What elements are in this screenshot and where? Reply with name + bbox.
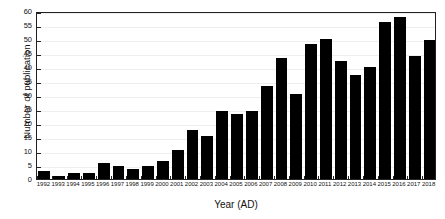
x-tick-mark xyxy=(141,176,142,179)
x-tick-mark xyxy=(185,176,186,179)
bar xyxy=(157,161,169,179)
x-tick-mark xyxy=(170,176,171,179)
x-tick-mark xyxy=(333,176,334,179)
x-tick-mark xyxy=(52,176,53,179)
plot-area xyxy=(36,12,436,180)
y-tick-label: 15 xyxy=(10,134,32,142)
x-tick-mark xyxy=(126,176,127,179)
bar xyxy=(68,173,80,179)
x-tick-mark xyxy=(274,176,275,179)
y-tick-label: 40 xyxy=(10,64,32,72)
x-tick-label: 2003 xyxy=(199,181,214,188)
x-tick-label: 2013 xyxy=(347,181,362,188)
x-tick-label: 2005 xyxy=(229,181,244,188)
x-tick-mark xyxy=(378,176,379,179)
y-tick-label: 30 xyxy=(10,92,32,100)
bar xyxy=(142,166,154,179)
bar xyxy=(172,150,184,179)
x-tick-label: 2015 xyxy=(377,181,392,188)
x-tick-label: 1996 xyxy=(95,181,110,188)
x-tick-label: 2006 xyxy=(243,181,258,188)
x-tick-label: 2008 xyxy=(273,181,288,188)
y-tick-label: 35 xyxy=(10,78,32,86)
x-tick-mark xyxy=(289,176,290,179)
x-axis-title: Year (AD) xyxy=(36,199,436,210)
bar xyxy=(350,75,362,179)
x-tick-label: 1995 xyxy=(80,181,95,188)
bar xyxy=(83,173,95,179)
x-tick-label: 1994 xyxy=(66,181,81,188)
y-tick-label: 5 xyxy=(10,162,32,170)
bar xyxy=(320,39,332,179)
y-tick-label: 50 xyxy=(10,36,32,44)
y-tick-label: 55 xyxy=(10,22,32,30)
x-tick-mark xyxy=(200,176,201,179)
bar xyxy=(246,111,258,179)
bar xyxy=(394,17,406,179)
bar xyxy=(53,176,65,179)
x-tick-label: 2018 xyxy=(421,181,436,188)
bar xyxy=(127,169,139,179)
x-tick-label: 1998 xyxy=(125,181,140,188)
x-tick-mark xyxy=(230,176,231,179)
x-tick-mark xyxy=(348,176,349,179)
x-tick-mark xyxy=(37,176,38,179)
bar xyxy=(364,67,376,179)
x-tick-label: 2007 xyxy=(258,181,273,188)
publication-bar-chart: Number of publication 051015202530354045… xyxy=(0,0,445,219)
x-tick-mark xyxy=(244,176,245,179)
x-tick-label: 1997 xyxy=(110,181,125,188)
x-tick-mark xyxy=(407,176,408,179)
x-tick-mark xyxy=(304,176,305,179)
x-tick-label: 2000 xyxy=(155,181,170,188)
x-tick-label: 2012 xyxy=(332,181,347,188)
x-tick-label: 2001 xyxy=(169,181,184,188)
y-tick-label: 10 xyxy=(10,148,32,156)
x-tick-label: 1992 xyxy=(36,181,51,188)
x-tick-mark xyxy=(318,176,319,179)
bar xyxy=(216,111,228,179)
x-tick-label: 2016 xyxy=(392,181,407,188)
x-tick-mark xyxy=(393,176,394,179)
y-tick-label: 25 xyxy=(10,106,32,114)
x-tick-mark xyxy=(67,176,68,179)
x-tick-mark xyxy=(81,176,82,179)
bar xyxy=(261,86,273,179)
y-tick-label: 0 xyxy=(10,176,32,184)
x-tick-mark xyxy=(96,176,97,179)
y-tick-label: 20 xyxy=(10,120,32,128)
bar xyxy=(113,166,125,179)
x-tick-mark xyxy=(363,176,364,179)
bar xyxy=(305,44,317,179)
bar xyxy=(335,61,347,179)
bar xyxy=(201,136,213,179)
x-tick-label: 1999 xyxy=(140,181,155,188)
x-tick-label: 2010 xyxy=(303,181,318,188)
bar xyxy=(290,94,302,179)
bar-series xyxy=(37,13,435,179)
x-tick-mark xyxy=(259,176,260,179)
x-tick-label: 1993 xyxy=(51,181,66,188)
bar xyxy=(379,22,391,179)
x-tick-label: 2004 xyxy=(214,181,229,188)
bar xyxy=(231,114,243,179)
x-tick-label: 2002 xyxy=(184,181,199,188)
x-tick-label: 2014 xyxy=(362,181,377,188)
x-tick-mark xyxy=(422,176,423,179)
x-tick-mark xyxy=(156,176,157,179)
bar xyxy=(276,58,288,179)
x-tick-mark xyxy=(215,176,216,179)
x-axis-tick-labels: 1992199319941995199619971998199920002001… xyxy=(36,181,436,195)
x-tick-mark xyxy=(111,176,112,179)
x-tick-label: 2009 xyxy=(288,181,303,188)
y-tick-label: 60 xyxy=(10,8,32,16)
y-tick-label: 45 xyxy=(10,50,32,58)
bar xyxy=(187,130,199,179)
bar xyxy=(424,40,436,179)
x-tick-label: 2011 xyxy=(317,181,332,188)
bar xyxy=(38,171,50,179)
x-tick-label: 2017 xyxy=(406,181,421,188)
bar xyxy=(409,56,421,179)
bar xyxy=(98,163,110,179)
